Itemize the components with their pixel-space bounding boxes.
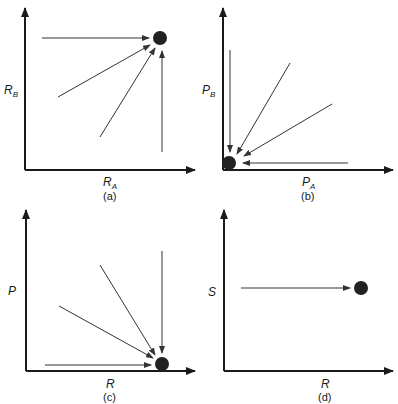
- arrow: [58, 45, 150, 97]
- x-axis-label: PA: [302, 175, 315, 191]
- arrow: [100, 265, 155, 355]
- y-axis-label: PB: [202, 83, 216, 99]
- panel-c: P R (c): [8, 210, 195, 403]
- arrow: [237, 63, 290, 154]
- arrow: [100, 48, 155, 137]
- panel-a: RB RA (a): [4, 8, 195, 202]
- attractor-dot: [354, 281, 368, 295]
- attractor-dot: [153, 31, 167, 45]
- panel-b: PB PA (b): [202, 8, 393, 202]
- y-axis-label: P: [8, 284, 16, 298]
- arrow: [244, 104, 332, 156]
- panel-caption: (a): [103, 190, 116, 202]
- panel-caption: (c): [103, 391, 116, 403]
- convergence-diagram: RB RA (a) PB PA (b) P R (c) S R (d): [0, 0, 398, 404]
- attractor-dot: [155, 357, 169, 371]
- panel-caption: (b): [301, 190, 314, 202]
- x-axis-label: RA: [103, 175, 117, 191]
- attractor-dot: [222, 156, 236, 170]
- panel-d: S R (d): [208, 210, 393, 403]
- x-axis-label: R: [106, 377, 115, 391]
- y-axis-label: RB: [4, 83, 19, 99]
- y-axis-label: S: [208, 285, 216, 299]
- x-axis-label: R: [321, 377, 330, 391]
- arrow: [59, 306, 153, 358]
- panel-caption: (d): [318, 391, 331, 403]
